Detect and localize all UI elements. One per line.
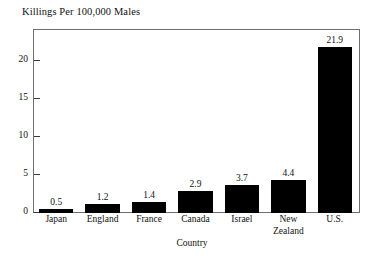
bar-france[interactable]: 1.4 (132, 202, 166, 213)
x-axis-label-line: England (87, 214, 119, 224)
x-axis-label-england: England (79, 214, 125, 226)
x-axis-label-line: France (136, 214, 162, 224)
x-axis-label-line: Canada (181, 214, 210, 224)
y-axis-tick (34, 136, 40, 137)
bar-rect (132, 202, 166, 213)
x-axis-label-japan: Japan (33, 214, 79, 226)
bar-rect (39, 209, 73, 213)
x-axis-label-line: Japan (45, 214, 67, 224)
bar-canada[interactable]: 2.9 (178, 191, 212, 213)
x-axis-label-israel: Israel (219, 214, 265, 226)
x-axis-label-line: U.S. (326, 214, 343, 224)
x-axis-label-new-zealand: NewZealand (265, 214, 311, 237)
chart-title: Killings Per 100,000 Males (22, 6, 140, 17)
y-axis-tick (34, 60, 40, 61)
bar-rect (318, 47, 352, 213)
bar-value-label: 4.4 (282, 168, 294, 179)
x-axis-title: Country (0, 238, 384, 248)
chart-container: Killings Per 100,000 Males 05101520 0.51… (0, 0, 384, 264)
bar-u-s[interactable]: 21.9 (318, 47, 352, 213)
y-axis-tick-label: 5 (0, 168, 28, 178)
bar-rect (271, 180, 305, 213)
bar-value-label: 3.7 (236, 173, 248, 184)
y-axis-tick (34, 98, 40, 99)
y-axis-tick-label: 15 (0, 92, 28, 102)
y-axis-tick-label: 20 (0, 54, 28, 64)
x-axis-label-line: New (279, 214, 297, 224)
y-axis-tick-label: 0 (0, 206, 28, 216)
bar-rect (85, 204, 119, 213)
x-axis-label-line: Israel (231, 214, 252, 224)
bar-rect (225, 185, 259, 213)
bar-japan[interactable]: 0.5 (39, 209, 73, 213)
bar-new-zealand[interactable]: 4.4 (271, 180, 305, 213)
bar-value-label: 2.9 (190, 179, 202, 190)
bar-rect (178, 191, 212, 213)
x-axis-label-canada: Canada (172, 214, 218, 226)
x-axis-label-u-s: U.S. (312, 214, 358, 226)
bar-value-label: 1.4 (143, 190, 155, 201)
bar-value-label: 21.9 (326, 35, 343, 46)
x-axis-label-france: France (126, 214, 172, 226)
bar-value-label: 1.2 (97, 192, 109, 203)
bar-israel[interactable]: 3.7 (225, 185, 259, 213)
bar-value-label: 0.5 (50, 197, 62, 208)
bar-england[interactable]: 1.2 (85, 204, 119, 213)
x-axis-label-line: Zealand (273, 226, 304, 236)
y-axis-tick (34, 174, 40, 175)
y-axis-tick-label: 10 (0, 130, 28, 140)
